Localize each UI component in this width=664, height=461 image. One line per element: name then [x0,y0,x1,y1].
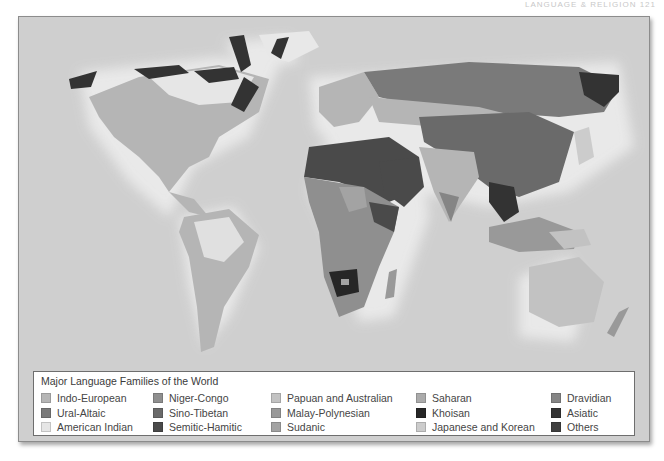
legend-item-indo-european: Indo-European [41,391,133,406]
page-header: LANGUAGE & RELIGION 121 [525,0,656,10]
legend-label: Papuan and Australian [287,392,393,404]
swatch-khoisan [416,408,426,418]
swatch-saharan [416,393,426,403]
swatch-papuan-australian [271,393,281,403]
legend-item-khoisan: Khoisan [416,406,535,421]
legend-column-2: Niger-Congo Sino-Tibetan Semitic-Hamitic [153,391,242,435]
swatch-american-indian [41,422,51,432]
legend-item-dravidian: Dravidian [551,391,611,406]
legend-label: Indo-European [57,392,126,404]
map-graphic: Major Language Families of the World Ind… [19,17,649,441]
swatch-ural-altaic [41,408,51,418]
legend-grid: Indo-European Ural-Altaic American India… [41,391,631,435]
legend-item-papuan-australian: Papuan and Australian [271,391,393,406]
swatch-japanese-korean [416,422,426,432]
legend-item-semitic-hamitic: Semitic-Hamitic [153,420,242,435]
legend-item-others: Others [551,420,611,435]
swatch-sudanic [271,422,281,432]
legend-item-niger-congo: Niger-Congo [153,391,242,406]
legend-label: Dravidian [567,392,611,404]
swatch-sino-tibetan [153,408,163,418]
legend-item-asiatic: Asiatic [551,406,611,421]
legend-label: Khoisan [432,407,470,419]
legend-column-4: Saharan Khoisan Japanese and Korean [416,391,535,435]
legend-item-sudanic: Sudanic [271,420,393,435]
legend-label: Sudanic [287,421,325,433]
legend-label: Semitic-Hamitic [169,421,242,433]
legend-item-japanese-korean: Japanese and Korean [416,420,535,435]
legend-label: Malay-Polynesian [287,407,370,419]
legend-column-1: Indo-European Ural-Altaic American India… [41,391,133,435]
legend-column-5: Dravidian Asiatic Others [551,391,611,435]
legend-label: American Indian [57,421,133,433]
swatch-others [551,422,561,432]
legend-label: Niger-Congo [169,392,229,404]
legend-label: Others [567,421,599,433]
legend-item-saharan: Saharan [416,391,535,406]
legend-item-ural-altaic: Ural-Altaic [41,406,133,421]
legend-label: Ural-Altaic [57,407,105,419]
swatch-indo-european [41,393,51,403]
legend-item-sino-tibetan: Sino-Tibetan [153,406,242,421]
swatch-malay-polynesian [271,408,281,418]
swatch-niger-congo [153,393,163,403]
legend-label: Sino-Tibetan [169,407,228,419]
legend: Major Language Families of the World Ind… [33,371,635,436]
legend-column-3: Papuan and Australian Malay-Polynesian S… [271,391,393,435]
legend-item-malay-polynesian: Malay-Polynesian [271,406,393,421]
legend-label: Saharan [432,392,472,404]
swatch-semitic-hamitic [153,422,163,432]
legend-label: Asiatic [567,407,598,419]
swatch-asiatic [551,408,561,418]
swatch-dravidian [551,393,561,403]
world-language-map: Major Language Families of the World Ind… [18,16,650,442]
legend-item-american-indian: American Indian [41,420,133,435]
legend-title: Major Language Families of the World [41,375,218,387]
legend-label: Japanese and Korean [432,421,535,433]
